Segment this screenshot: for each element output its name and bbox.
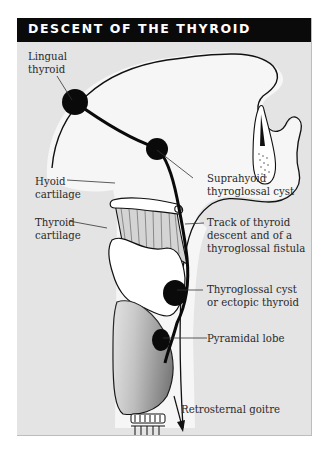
label-thyroglossal-cyst: Thyroglossal cyst or ectopic thyroid: [207, 283, 299, 309]
diagram-panel: DESCENT OF THE THYROID: [17, 18, 312, 436]
label-suprahyoid-cyst: Suprahyoid thyroglossal cyst: [207, 172, 294, 198]
label-lingual-thyroid: Lingual thyroid: [28, 50, 67, 76]
label-pyramidal-lobe: Pyramidal lobe: [207, 332, 285, 345]
thyroglossal-cyst-nodule: [163, 280, 187, 306]
pyramidal-lobe-nodule: [152, 329, 170, 351]
label-hyoid-cartilage: Hyoid cartilage: [35, 175, 81, 201]
label-descent-track: Track of thyroid descent and of a thyrog…: [207, 216, 305, 255]
suprahyoid-cyst-nodule: [146, 138, 168, 160]
lingual-thyroid-nodule: [62, 89, 88, 115]
label-retrosternal-goitre: Retrosternal goitre: [181, 403, 280, 416]
label-thyroid-cartilage: Thyroid cartilage: [35, 216, 81, 242]
